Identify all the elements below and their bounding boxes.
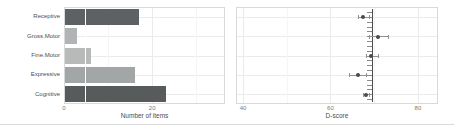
errorbar-cap-high <box>369 93 370 97</box>
item-rug-tick <box>367 31 372 32</box>
errorbar-cap-high <box>378 54 379 58</box>
gridline-horizontal <box>237 56 437 57</box>
dscore-point <box>356 73 360 77</box>
gridline-horizontal <box>237 17 437 18</box>
x-tick-label: 60 <box>322 105 338 111</box>
bar-fine-motor <box>65 48 91 64</box>
dscore-axis-title: D-score <box>236 112 438 119</box>
items-reference-line <box>85 9 87 103</box>
errorbar-cap-low <box>369 35 370 39</box>
item-rug-tick <box>367 80 372 81</box>
item-rug-tick <box>367 75 372 76</box>
category-label: Cognitive <box>0 91 60 98</box>
gridline-horizontal <box>65 36 224 37</box>
errorbar-cap-high <box>366 73 367 77</box>
item-rug-tick <box>367 46 372 47</box>
item-rug-tick <box>367 22 372 23</box>
gridline-horizontal <box>237 75 437 76</box>
x-tick-label: 0 <box>56 105 72 111</box>
item-rug-tick <box>367 85 372 86</box>
bar-receptive <box>65 9 139 25</box>
item-rug-tick <box>367 70 372 71</box>
category-label: Gross.Motor <box>0 33 60 40</box>
item-rug-tick <box>367 51 372 52</box>
item-rug-tick <box>367 89 372 90</box>
bar-expressive <box>65 67 135 83</box>
gridline-minor <box>287 8 288 103</box>
item-rug-tick <box>367 12 372 13</box>
gridline-major <box>418 8 419 103</box>
gridline-minor <box>196 8 197 103</box>
items-axis-title: Number of items <box>64 112 225 119</box>
x-tick-label: 20 <box>144 105 160 111</box>
errorbar-cap-high <box>388 35 389 39</box>
dscore-point <box>376 35 380 39</box>
gridline-major <box>330 8 331 103</box>
gridline-major <box>243 8 244 103</box>
gridline-horizontal <box>237 36 437 37</box>
bar-gross-motor <box>65 28 77 44</box>
x-tick-label: 40 <box>235 105 251 111</box>
errorbar-cap-low <box>366 54 367 58</box>
category-label: Receptive <box>0 13 60 20</box>
item-rug-tick <box>367 99 372 100</box>
bottom-divider <box>0 124 454 125</box>
item-rug-tick <box>367 65 372 66</box>
category-label: Expressive <box>0 71 60 78</box>
errorbar-cap-low <box>349 73 350 77</box>
bar-cognitive <box>65 86 166 102</box>
gridline-horizontal <box>237 94 437 95</box>
x-tick-label: 80 <box>410 105 426 111</box>
item-rug-tick <box>367 60 372 61</box>
category-label: Fine.Motor <box>0 52 60 59</box>
dscore-domain-report-figure: Number of items D-score ReceptiveGross.M… <box>0 0 454 129</box>
errorbar-cap-low <box>358 15 359 19</box>
item-rug-tick <box>367 27 372 28</box>
errorbar-cap-high <box>369 15 370 19</box>
item-rug-tick <box>367 41 372 42</box>
